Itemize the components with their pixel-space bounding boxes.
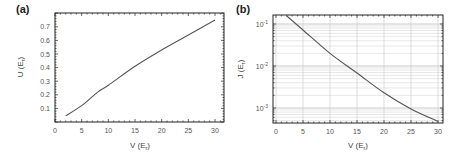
chart-panel-a: (a) 0510152025300.10.20.30.40.50.60.7 V … bbox=[0, 0, 232, 155]
chart-a-y-axis-title: U (Er) bbox=[16, 56, 26, 77]
chart-b-y-tick-label: 10-3 bbox=[256, 103, 268, 112]
chart-a-y-tick-label: 0.1 bbox=[40, 105, 50, 112]
chart-a-x-tick-label: 0 bbox=[53, 127, 57, 134]
chart-b-plot-frame bbox=[273, 15, 443, 123]
chart-b-y-tick-label: 10-1 bbox=[256, 19, 268, 28]
chart-a-svg: (a) 0510152025300.10.20.30.40.50.60.7 V … bbox=[0, 0, 232, 155]
chart-b-x-tick-label: 15 bbox=[353, 128, 361, 135]
chart-b-ticks: 05101520253010-110-210-3 bbox=[256, 15, 443, 135]
chart-b-x-tick-label: 5 bbox=[301, 128, 305, 135]
chart-b-x-tick-label: 30 bbox=[434, 128, 442, 135]
chart-a-y-tick-label: 0.5 bbox=[40, 51, 50, 58]
chart-a-x-tick-label: 20 bbox=[158, 127, 166, 134]
panel-label-b: (b) bbox=[236, 3, 250, 15]
chart-panel-b: (b) 05101520253010-110-210-3 V (Er) J (E… bbox=[232, 0, 464, 155]
chart-a-x-tick-label: 30 bbox=[211, 127, 219, 134]
chart-a-x-axis-title: V (Er) bbox=[130, 141, 150, 151]
panel-label-a: (a) bbox=[16, 3, 30, 15]
chart-a-y-tick-label: 0.2 bbox=[40, 91, 50, 98]
chart-a-x-tick-label: 10 bbox=[104, 127, 112, 134]
chart-a-ticks: 0510152025300.10.20.30.40.50.60.7 bbox=[40, 13, 224, 134]
chart-b-x-axis-title: V (Er) bbox=[348, 141, 368, 151]
chart-b-gridlines bbox=[273, 15, 443, 123]
chart-a-y-tick-label: 0.6 bbox=[40, 37, 50, 44]
chart-a-x-tick-label: 5 bbox=[80, 127, 84, 134]
chart-a-y-tick-label: 0.7 bbox=[40, 23, 50, 30]
chart-b-y-axis-title: J (Er) bbox=[236, 59, 246, 78]
chart-b-curve bbox=[287, 16, 438, 121]
chart-b-x-tick-label: 0 bbox=[274, 128, 278, 135]
chart-b-x-tick-label: 20 bbox=[380, 128, 388, 135]
chart-a-x-tick-label: 15 bbox=[131, 127, 139, 134]
chart-b-y-tick-label: 10-2 bbox=[256, 61, 268, 70]
chart-b-x-tick-label: 25 bbox=[407, 128, 415, 135]
chart-a-x-tick-label: 25 bbox=[184, 127, 192, 134]
chart-a-curve bbox=[66, 20, 215, 116]
chart-b-svg: (b) 05101520253010-110-210-3 V (Er) J (E… bbox=[232, 0, 464, 155]
chart-a-y-tick-label: 0.3 bbox=[40, 78, 50, 85]
chart-a-y-tick-label: 0.4 bbox=[40, 64, 50, 71]
chart-b-x-tick-label: 10 bbox=[326, 128, 334, 135]
